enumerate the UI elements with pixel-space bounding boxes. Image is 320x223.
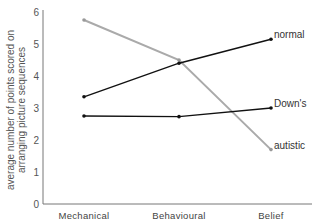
series-normal: normal	[82, 29, 304, 98]
category-label: Mechanical	[58, 210, 109, 221]
series-label: normal	[274, 29, 305, 40]
category-label: Behavioural	[152, 210, 205, 221]
y-tick-label: 3	[33, 103, 39, 114]
series-line	[84, 108, 271, 117]
y-tick-label: 6	[33, 7, 39, 18]
data-point	[82, 18, 86, 22]
data-point	[269, 37, 273, 41]
y-tick-labels: 0123456	[33, 7, 39, 210]
data-point	[177, 58, 181, 62]
series-label: autistic	[274, 140, 305, 151]
category-label: Belief	[258, 210, 284, 221]
data-point	[269, 148, 273, 152]
category-labels: MechanicalBehaviouralBelief	[58, 210, 283, 221]
y-axis-label: average number of points scored on arran…	[5, 30, 27, 190]
series-lines: autisticDown'snormal	[82, 18, 306, 151]
data-point	[82, 114, 86, 118]
data-point	[269, 106, 273, 110]
series-downs: Down's	[82, 98, 306, 118]
y-tick-label: 0	[33, 199, 39, 210]
y-tick-label: 4	[33, 71, 39, 82]
data-point	[177, 61, 181, 65]
data-point	[82, 95, 86, 99]
series-label: Down's	[274, 98, 306, 109]
y-tick-label: 1	[33, 167, 39, 178]
series-line	[84, 39, 271, 97]
y-tick-label: 2	[33, 135, 39, 146]
y-axis-label-line-2: arranging picture sequences	[16, 47, 27, 173]
line-chart: 0123456 MechanicalBehaviouralBelief auti…	[0, 0, 320, 223]
y-axis-label-line-1: average number of points scored on	[5, 30, 16, 190]
data-point	[177, 115, 181, 119]
series-line	[84, 20, 271, 150]
y-tick-label: 5	[33, 39, 39, 50]
